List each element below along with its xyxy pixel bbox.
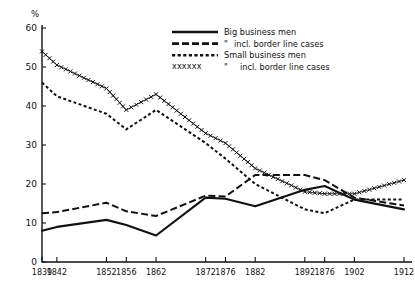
y-tick-label: 30	[26, 140, 38, 150]
y-tick-label: 0	[31, 257, 37, 267]
x-tick-label: 1876	[314, 268, 334, 277]
y-tick-label: 40	[26, 101, 38, 111]
x-tick-label: 1852	[96, 268, 116, 277]
series-line	[42, 51, 404, 193]
chart-series	[40, 49, 406, 235]
x-tick-label: 1912	[394, 268, 414, 277]
x-tick-label: 1872	[195, 268, 215, 277]
chart-axes	[42, 25, 412, 262]
y-tick-label: 60	[26, 23, 38, 33]
x-tick-label: 1842	[47, 268, 67, 277]
x-tick-label: 1902	[344, 268, 364, 277]
x-tick-label: 1862	[146, 268, 166, 277]
x-tick-label: 1892	[295, 268, 315, 277]
y-tick-label: 20	[26, 179, 38, 189]
legend-label: Small business men	[224, 50, 306, 60]
y-axis-unit-label: %	[31, 9, 39, 19]
x-tick-label: 1876	[215, 268, 235, 277]
chart-legend: Big business men"incl. border line cases…	[172, 27, 330, 72]
legend-label: Big business men	[224, 27, 296, 37]
legend-label: incl. border line cases	[234, 39, 324, 49]
y-tick-label: 50	[26, 62, 38, 72]
x-axis-ticks: 1839184218521856186218721876188218921876…	[32, 257, 414, 277]
series-line-dashed	[42, 175, 404, 216]
legend-ditto-mark: "	[224, 39, 228, 49]
legend-ditto-mark: "	[224, 62, 228, 72]
chart-figure: 0102030405060 18391842185218561862187218…	[0, 0, 415, 295]
line-chart: 0102030405060 18391842185218561862187218…	[0, 0, 415, 295]
x-tick-label: 1856	[116, 268, 136, 277]
y-tick-label: 10	[26, 218, 38, 228]
legend-label: incl. border line cases	[240, 62, 330, 72]
axis-lines	[42, 25, 412, 262]
legend-sample-crosses: xxxxxx	[172, 62, 202, 71]
series-crosses	[40, 49, 406, 195]
x-tick-label: 1882	[245, 268, 265, 277]
